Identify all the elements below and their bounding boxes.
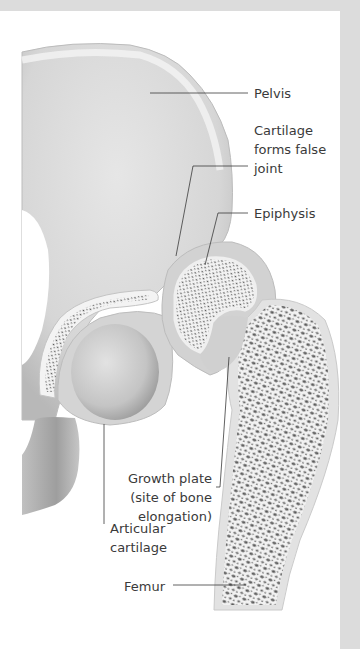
label-cartilage-false-joint: Cartilage forms false joint <box>254 121 326 178</box>
figure-frame: Pelvis Cartilage forms false joint Epiph… <box>0 0 360 649</box>
socket-ball <box>71 324 159 420</box>
label-pelvis: Pelvis <box>254 84 291 103</box>
hip-joint-illustration <box>0 11 340 649</box>
label-growth-plate: Growth plate (site of bone elongation) <box>116 469 212 526</box>
ischium-shape <box>22 417 79 515</box>
illustration-panel: Pelvis Cartilage forms false joint Epiph… <box>0 11 340 649</box>
label-femur: Femur <box>124 577 165 596</box>
label-articular-cartilage: Articular cartilage <box>110 519 167 557</box>
label-epiphysis: Epiphysis <box>254 204 315 223</box>
